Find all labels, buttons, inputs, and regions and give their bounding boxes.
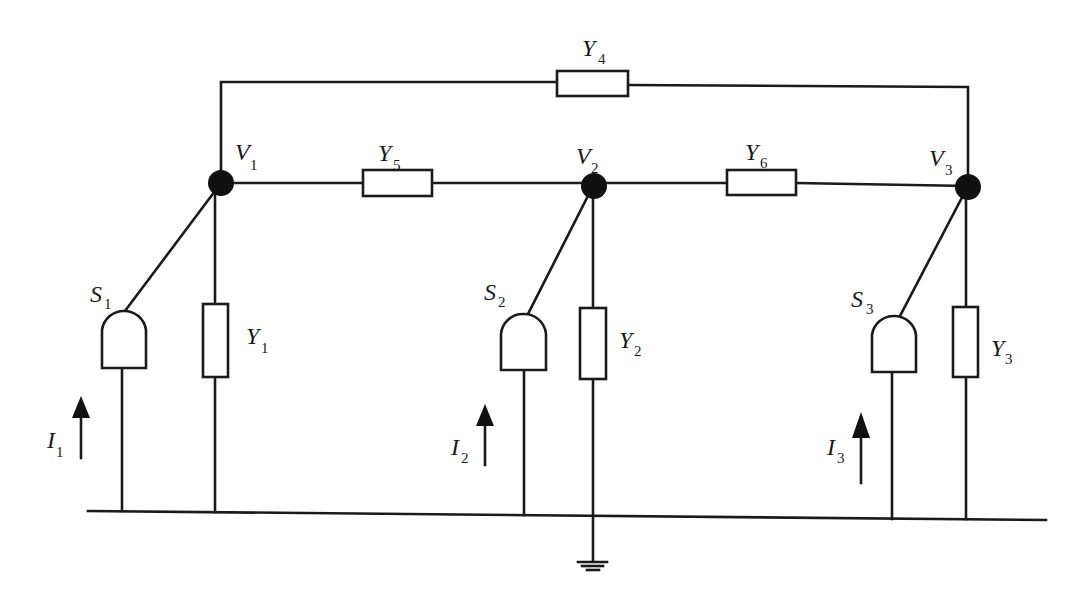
label-v2: V2 [576,143,599,176]
wire-y6-to-v3 [796,183,968,186]
label-s1: S1 [90,281,112,312]
node-v1 [208,170,234,196]
node-v2 [581,173,607,199]
label-s3: S3 [851,286,874,317]
label-i3: I3 [826,434,845,466]
admittance-y5 [363,170,432,196]
label-v3: V3 [929,145,953,178]
labels: Y4 Y5 Y6 V1 V2 V3 S1 S2 S3 Y1 Y2 Y3 I1 I… [46,35,1013,466]
admittance-y6 [727,170,796,195]
label-i2: I2 [450,434,469,466]
label-y3: Y3 [991,335,1013,367]
label-s2: S2 [484,279,506,310]
label-v1: V1 [235,139,258,173]
wire-v1-to-y4 [221,82,556,183]
current-arrows [72,396,870,483]
wire-y4-to-v3 [628,85,968,186]
label-i1: I1 [46,427,64,460]
current-arrow-i1-icon [72,396,90,458]
node-v3 [955,174,981,200]
wire-v2-to-s2 [528,186,593,314]
current-arrow-i3-icon [852,412,870,483]
label-y5: Y5 [378,140,401,173]
label-y4: Y4 [582,35,606,67]
ground-icon [578,562,607,570]
label-y6: Y6 [745,139,768,171]
admittance-y2 [580,308,606,379]
label-y1: Y1 [246,323,269,356]
generator-s3-icon [872,316,916,372]
admittance-y3 [953,307,978,377]
generator-s1-icon [102,311,146,368]
admittance-y4 [557,71,628,96]
admittances [203,71,978,379]
wire-v3-to-s3 [900,186,968,316]
generator-s2-icon [501,314,546,370]
wire-v1-to-s1 [125,183,221,311]
admittance-y1 [203,304,228,377]
current-arrow-i2-icon [476,404,494,465]
label-y2: Y2 [619,327,642,359]
circuit-diagram: Y4 Y5 Y6 V1 V2 V3 S1 S2 S3 Y1 Y2 Y3 I1 I… [0,0,1086,606]
ground-bus [88,511,1046,520]
